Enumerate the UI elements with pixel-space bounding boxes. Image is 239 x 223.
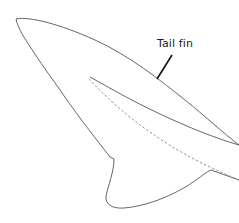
- diagram-canvas: Tail fin: [0, 0, 239, 223]
- upper-lobe-outline: [16, 18, 239, 145]
- inner-ridge-line: [90, 77, 239, 145]
- tail-fin-drawing: [0, 0, 239, 223]
- label-leader-line: [157, 55, 172, 79]
- leading-edge-outline: [16, 19, 110, 157]
- lower-lobe-outline: [106, 157, 211, 208]
- dashed-contour-line: [89, 79, 239, 180]
- tail-fin-label: Tail fin: [157, 37, 193, 50]
